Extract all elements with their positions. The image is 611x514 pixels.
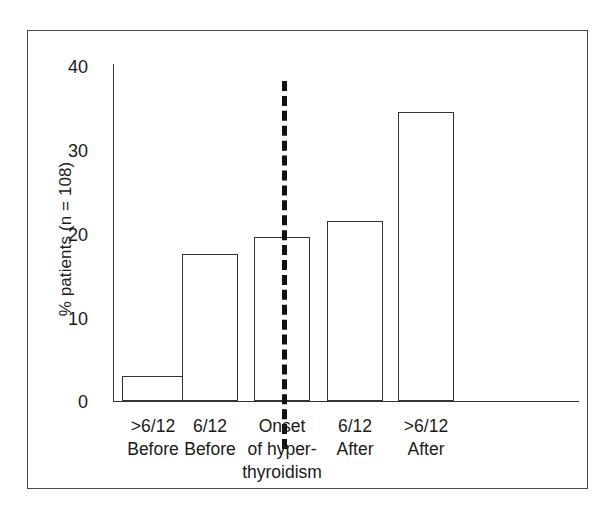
bar-gt6-12-before bbox=[122, 376, 184, 401]
onset-divider-line bbox=[282, 81, 287, 449]
y-tick-label-40: 40 bbox=[42, 58, 88, 76]
y-tick-label-0: 0 bbox=[42, 393, 88, 411]
bar-6-12-after bbox=[327, 221, 383, 401]
bar-gt6-12-after bbox=[398, 112, 454, 401]
y-tick-label-20: 20 bbox=[42, 226, 88, 244]
y-tick-label-30: 30 bbox=[42, 142, 88, 160]
bar-6-12-before bbox=[182, 254, 238, 401]
x-axis-baseline bbox=[113, 401, 579, 402]
figure-frame: % patients (n = 108) 40 30 20 10 0 >6/12… bbox=[27, 30, 588, 489]
y-axis-spine bbox=[113, 64, 114, 402]
x-axis-label-gt6-12-after: >6/12 After bbox=[378, 415, 474, 461]
y-tick-label-10: 10 bbox=[42, 310, 88, 328]
plot-area: % patients (n = 108) 40 30 20 10 0 >6/12… bbox=[28, 31, 589, 490]
